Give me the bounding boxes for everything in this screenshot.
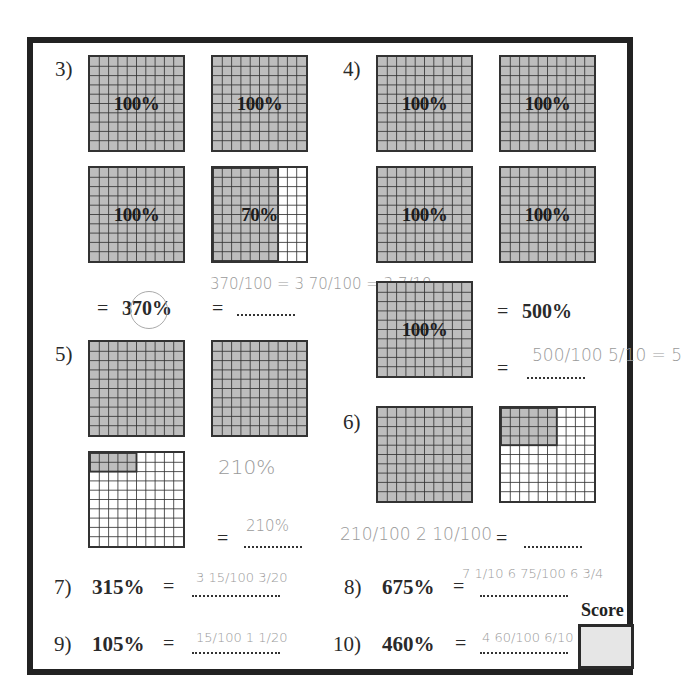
- problem-4-answer-line[interactable]: [527, 377, 585, 379]
- problem-4-handwritten-answer: 500/100 5/10 = 5: [532, 345, 682, 365]
- hundred-grid: 100%: [211, 55, 308, 152]
- score-label: Score: [581, 600, 624, 621]
- grid-label: 100%: [213, 92, 306, 114]
- hundred-grid: [88, 340, 185, 437]
- hundred-grid: 100%: [499, 166, 596, 263]
- grid-label: 100%: [501, 92, 594, 114]
- hundred-grid: 100%: [376, 55, 473, 152]
- hundred-grid: 100%: [376, 281, 473, 378]
- grid-label: 100%: [90, 92, 183, 114]
- problem-5-number: 5): [55, 342, 73, 367]
- problem-4-percent: 500%: [522, 300, 572, 323]
- problem-6-handwritten-work: 210/100 2 10/100: [340, 524, 492, 544]
- hundred-grid: 100%: [88, 55, 185, 152]
- problem-7-percent: 315%: [92, 575, 145, 600]
- grid-label: 100%: [378, 318, 471, 340]
- problem-10-number: 10): [333, 632, 361, 657]
- problem-10-answer-line[interactable]: [480, 652, 568, 654]
- hundred-grid: 100%: [376, 166, 473, 263]
- hundred-grid: [88, 451, 185, 548]
- problem-8-answer-line[interactable]: [480, 595, 568, 597]
- problem-4-equals: =: [497, 300, 508, 323]
- problem-5-handwritten-answer: 210%: [246, 517, 289, 535]
- problem-5-equals: =: [217, 527, 228, 550]
- problem-8-number: 8): [344, 575, 362, 600]
- problem-9-equals: =: [163, 632, 174, 655]
- hundred-grid: [376, 406, 473, 503]
- grid-label: 100%: [378, 203, 471, 225]
- problem-10-equals: =: [455, 632, 466, 655]
- pencil-circle-mark: [130, 291, 168, 329]
- problem-7-equals: =: [163, 575, 174, 598]
- grid-label: 70%: [213, 203, 306, 225]
- problem-4-number: 4): [343, 57, 361, 82]
- problem-5-handwritten-note: 210%: [218, 455, 275, 479]
- problem-9-handwritten-answer: 15/100 1 1/20: [196, 630, 287, 645]
- hundred-grid: [499, 406, 596, 503]
- problem-3-answer-equals: =: [212, 297, 223, 320]
- problem-9-answer-line[interactable]: [192, 652, 280, 654]
- grid-label: 100%: [90, 203, 183, 225]
- problem-3-number: 3): [55, 57, 73, 82]
- problem-6-answer-line[interactable]: [524, 546, 582, 548]
- problem-6-equals: =: [496, 527, 507, 550]
- hundred-grid: 100%: [499, 55, 596, 152]
- problem-10-percent: 460%: [382, 632, 435, 657]
- problem-5-answer-line[interactable]: [244, 546, 302, 548]
- problem-7-handwritten-answer: 3 15/100 3/20: [196, 570, 287, 585]
- problem-3-answer-line[interactable]: [237, 314, 295, 316]
- score-box[interactable]: [578, 624, 634, 669]
- problem-7-number: 7): [54, 575, 72, 600]
- grid-label: 100%: [501, 203, 594, 225]
- problem-10-handwritten-answer: 4 60/100 6/10: [482, 630, 573, 645]
- problem-8-handwritten-answer: 7 1/10 6 75/100 6 3/4: [462, 566, 603, 581]
- grid-label: 100%: [378, 92, 471, 114]
- problem-8-percent: 675%: [382, 575, 435, 600]
- hundred-grid: 70%: [211, 166, 308, 263]
- problem-9-number: 9): [54, 632, 72, 657]
- problem-6-number: 6): [343, 410, 361, 435]
- problem-7-answer-line[interactable]: [192, 595, 280, 597]
- problem-4-answer-equals: =: [497, 357, 508, 380]
- hundred-grid: 100%: [88, 166, 185, 263]
- hundred-grid: [211, 340, 308, 437]
- problem-9-percent: 105%: [92, 632, 145, 657]
- problem-3-equals: =: [97, 297, 108, 320]
